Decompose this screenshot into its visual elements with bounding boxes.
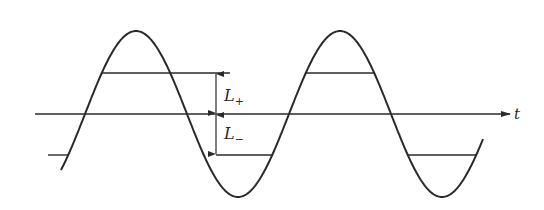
label-l-plus-main: L bbox=[223, 86, 235, 105]
label-l-plus: L+ bbox=[223, 86, 244, 108]
label-l-plus-sub: + bbox=[235, 95, 244, 108]
label-l-minus-sub: − bbox=[235, 133, 244, 146]
axis-label-t: t bbox=[514, 105, 521, 123]
diagram-canvas: t L+ L− bbox=[0, 0, 544, 210]
label-l-minus: L− bbox=[223, 124, 244, 146]
sine-threshold-diagram: t L+ L− bbox=[0, 0, 544, 210]
label-l-minus-main: L bbox=[223, 124, 235, 143]
